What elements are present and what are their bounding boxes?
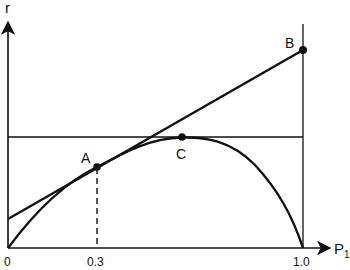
x-axis-label: P1: [334, 240, 350, 260]
x-tick-0: 0: [4, 255, 11, 269]
x-axis-label-main: P: [334, 240, 344, 257]
diagram-figure: A B C r P1 0 0.3 1.0: [0, 0, 350, 270]
point-b: [299, 46, 307, 54]
point-c-label: C: [176, 146, 186, 162]
tangent-line: [8, 50, 303, 219]
point-a: [93, 163, 101, 171]
point-a-label: A: [81, 150, 91, 166]
point-b-label: B: [285, 35, 294, 51]
y-axis-label: r: [5, 0, 10, 16]
x-axis-label-subscript: 1: [344, 249, 350, 260]
x-tick-0-3: 0.3: [87, 255, 104, 269]
x-tick-1-0: 1.0: [293, 255, 310, 269]
point-c: [178, 133, 186, 141]
